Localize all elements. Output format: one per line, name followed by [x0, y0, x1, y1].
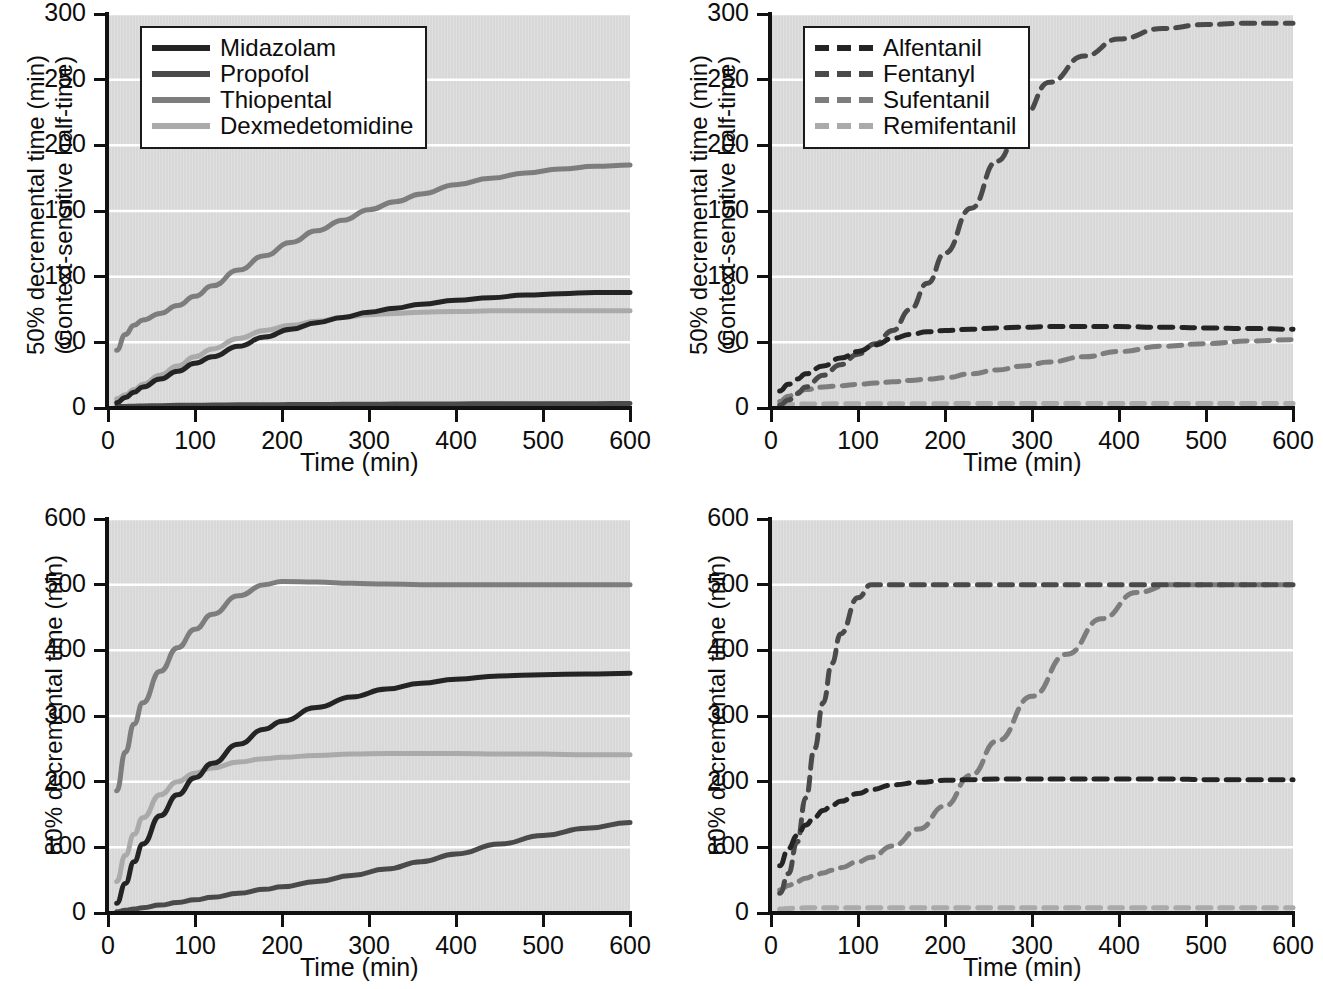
legend-item: Sufentanil: [815, 87, 1016, 113]
y-tick: [94, 780, 108, 783]
y-tick: [757, 780, 771, 783]
y-tick: [757, 275, 771, 278]
y-axis-title-bottom-left: 80% decremental time (min): [40, 510, 68, 900]
y-tick: [757, 649, 771, 652]
x-tick: [194, 408, 197, 422]
y-tick: [757, 13, 771, 16]
y-axis-title-line2: (Context-sensitive half-time): [50, 56, 77, 355]
x-tick-label: 0: [78, 428, 138, 453]
x-axis-title-bottom-right: Time (min): [963, 953, 1082, 982]
x-tick: [542, 913, 545, 927]
y-tick: [94, 583, 108, 586]
y-tick: [94, 715, 108, 718]
x-tick: [1118, 408, 1121, 422]
y-tick: [94, 518, 108, 521]
x-tick: [455, 913, 458, 927]
x-tick: [107, 408, 110, 422]
x-tick-label: 600: [1263, 428, 1323, 453]
x-tick-label: 100: [165, 428, 225, 453]
legend-item: Propofol: [152, 61, 413, 87]
x-tick-label: 100: [165, 933, 225, 958]
y-tick: [94, 341, 108, 344]
x-tick: [770, 408, 773, 422]
x-tick: [194, 913, 197, 927]
legend-label-sufentanil: Sufentanil: [883, 88, 990, 112]
x-tick-label: 500: [513, 428, 573, 453]
legend-swatch-dexmedetomidine: [152, 123, 210, 129]
series-line-remifentanil: [780, 404, 1293, 405]
x-tick: [944, 913, 947, 927]
y-tick: [757, 846, 771, 849]
x-tick: [629, 408, 632, 422]
x-tick-label: 0: [741, 933, 801, 958]
y-tick: [94, 13, 108, 16]
series-line-alfentanil: [780, 327, 1293, 391]
y-tick: [757, 78, 771, 81]
legend-label-thiopental: Thiopental: [220, 88, 332, 112]
legend-item: Remifentanil: [815, 113, 1016, 139]
legend-top-left: Midazolam Propofol Thiopental Dexmedetom…: [140, 26, 427, 149]
legend-label-propofol: Propofol: [220, 62, 309, 86]
series-line-sufentanil: [780, 340, 1293, 402]
figure-decremental-times: 0501001502002503000100200300400500600 50…: [0, 0, 1323, 989]
legend-swatch-midazolam: [152, 45, 210, 51]
x-tick: [281, 913, 284, 927]
y-tick: [757, 518, 771, 521]
x-tick: [281, 408, 284, 422]
y-tick: [757, 341, 771, 344]
x-tick: [368, 913, 371, 927]
y-tick: [94, 275, 108, 278]
x-tick: [1031, 408, 1034, 422]
legend-swatch-alfentanil: [815, 45, 873, 51]
series-line-dexmedetomidine: [117, 311, 630, 399]
x-tick: [857, 408, 860, 422]
y-tick: [94, 144, 108, 147]
y-tick: [94, 649, 108, 652]
x-tick-label: 500: [1176, 428, 1236, 453]
y-tick: [94, 78, 108, 81]
panel-bottom-right: 01002003004005006000100200300400500600 8…: [663, 500, 1323, 989]
y-tick: [94, 210, 108, 213]
x-tick: [770, 913, 773, 927]
y-tick: [757, 210, 771, 213]
curves-bottom-right: [663, 500, 1323, 989]
x-tick-label: 500: [1176, 933, 1236, 958]
legend-item: Thiopental: [152, 87, 413, 113]
y-axis-title-line2: (Context-sensitive half-time): [713, 56, 740, 355]
panel-top-left: 0501001502002503000100200300400500600 50…: [0, 0, 660, 490]
legend-swatch-propofol: [152, 71, 210, 77]
y-axis-title-line1: 50% decremental time (min): [22, 55, 49, 355]
legend-item: Midazolam: [152, 35, 413, 61]
x-tick-label: 100: [828, 428, 888, 453]
x-axis-title-top-right: Time (min): [963, 448, 1082, 477]
x-tick-label: 600: [600, 428, 660, 453]
panel-bottom-left: 01002003004005006000100200300400500600 8…: [0, 500, 660, 989]
legend-swatch-remifentanil: [815, 123, 873, 129]
x-axis-title-bottom-left: Time (min): [300, 953, 419, 982]
series-line-thiopental: [117, 581, 630, 790]
legend-label-midazolam: Midazolam: [220, 36, 336, 60]
x-tick-label: 500: [513, 933, 573, 958]
y-axis-title-line1: 50% decremental time (min): [685, 55, 712, 355]
x-axis-title-top-left: Time (min): [300, 448, 419, 477]
x-tick: [857, 913, 860, 927]
legend-item: Dexmedetomidine: [152, 113, 413, 139]
x-tick: [1205, 408, 1208, 422]
series-line-remifentanil: [780, 908, 1293, 909]
x-tick: [1292, 408, 1295, 422]
y-axis-title-top-left: 50% decremental time (min) (Context-sens…: [22, 10, 78, 400]
x-tick: [1205, 913, 1208, 927]
legend-label-remifentanil: Remifentanil: [883, 114, 1016, 138]
series-line-dexmedetomidine: [117, 753, 630, 881]
legend-top-right: Alfentanil Fentanyl Sufentanil Remifenta…: [803, 26, 1030, 149]
legend-swatch-sufentanil: [815, 97, 873, 103]
x-tick-label: 400: [1089, 428, 1149, 453]
curves-bottom-left: [0, 500, 660, 989]
x-tick: [629, 913, 632, 927]
y-tick: [757, 144, 771, 147]
legend-item: Fentanyl: [815, 61, 1016, 87]
series-line-propofol: [117, 822, 630, 911]
legend-label-alfentanil: Alfentanil: [883, 36, 982, 60]
x-tick: [455, 408, 458, 422]
x-tick-label: 400: [426, 428, 486, 453]
